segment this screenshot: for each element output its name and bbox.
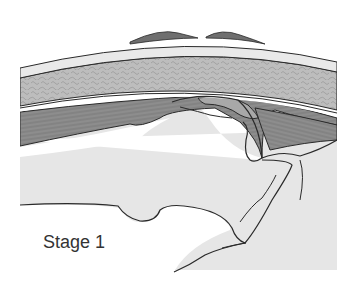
stage-caption: Stage 1: [43, 232, 105, 253]
dark-tissue-right: [206, 32, 265, 44]
dark-tissue-left: [130, 32, 198, 44]
